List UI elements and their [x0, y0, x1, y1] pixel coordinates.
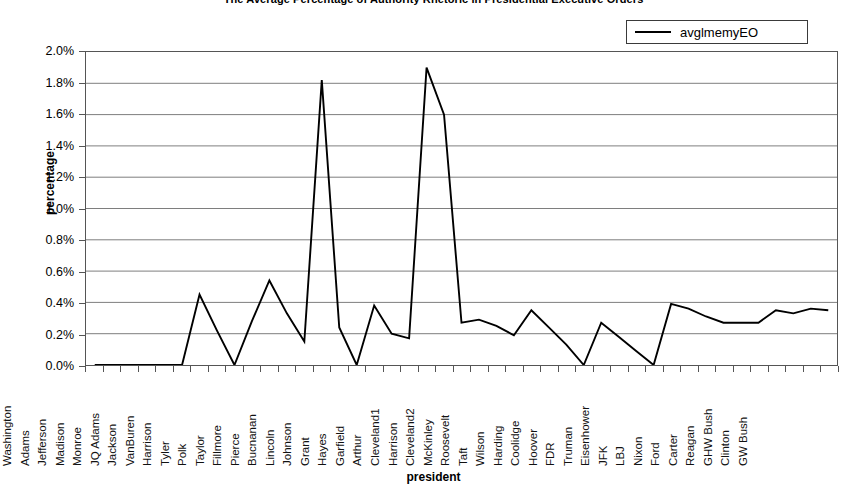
chart-canvas: The Average Percentage of Authority Rhet… — [0, 0, 867, 500]
x-axis-tick-label-text: Washington — [2, 406, 13, 468]
x-axis-tick-label-text: Ford — [650, 442, 661, 468]
x-axis-tick-label-text: Bucnanan — [247, 414, 258, 468]
data-series-line — [95, 68, 829, 365]
x-axis-tick-label-text: Harrison — [388, 423, 399, 468]
y-axis-tick-label: 0.0% — [16, 360, 74, 373]
x-axis-tick-label-text: Jackson — [107, 424, 118, 468]
chart-legend: avglmemyEO — [626, 20, 808, 44]
x-axis-tick-label-text: Reagan — [685, 426, 696, 468]
x-axis-tick-label-text: Polk — [177, 444, 188, 468]
x-axis-tick-label-text: LBJ — [615, 446, 626, 468]
x-axis-tick-label-text: Tyler — [160, 441, 171, 468]
x-axis-tick-label-text: Johnson — [282, 423, 293, 468]
y-axis-tick-label: 2.0% — [16, 45, 74, 58]
x-axis-tick-label-text: Hayes — [317, 433, 328, 468]
legend-line-swatch — [635, 31, 671, 33]
y-axis-tick-label: 1.6% — [16, 108, 74, 121]
y-axis-tick-label: 1.8% — [16, 77, 74, 90]
x-axis-tick-labels: WashingtonAdamsJeffersonMadisonMonroeJQ … — [85, 368, 838, 468]
y-axis-tick-label: 1.2% — [16, 171, 74, 184]
x-axis-tick-label-text: Taylor — [195, 435, 206, 468]
x-axis-tick-label-text: Taft — [458, 447, 469, 468]
x-axis-tick-label-text: Arthur — [352, 435, 363, 468]
x-axis-tick-label-text: Lincoln — [265, 430, 276, 468]
x-axis-tick-label: GW Bush — [738, 372, 834, 468]
x-axis-tick-label-text: Pierce — [230, 433, 241, 468]
x-axis-tick-label-text: JFK — [598, 446, 609, 468]
x-axis-tick-label-text: Grant — [300, 437, 311, 468]
x-axis-tick-label-text: McKinley — [423, 419, 434, 468]
y-axis-tick-labels: 2.0%1.8%1.6%1.4%1.2%1.0%0.8%0.6%0.4%0.2%… — [16, 51, 74, 366]
x-axis-tick-label-text: Nixon — [633, 437, 644, 468]
legend-label-avglmemyeo: avglmemyEO — [680, 26, 758, 39]
y-axis-tick-label: 0.6% — [16, 266, 74, 279]
x-axis-tick-label-text: Fillmore — [212, 425, 223, 468]
x-axis-tick-label-text: Clinton — [720, 430, 731, 468]
x-axis-tick-label-text: Wilson — [475, 431, 486, 468]
x-axis-tick-label-text: Roosevelt — [440, 415, 451, 468]
x-axis-tick-label-text: Carter — [668, 434, 679, 468]
x-axis-tick-label-text: Eisenhower — [580, 406, 591, 468]
x-axis-tick-label-text: GW Bush — [738, 417, 749, 468]
plot-area — [85, 51, 838, 366]
x-axis-tick-label-text: FDR — [545, 442, 556, 468]
x-axis-tick-label-text: GHW Bush — [703, 408, 714, 468]
x-axis-tick-label-text: Coolidge — [510, 421, 521, 468]
x-axis-tick-label-text: Cleveland1 — [370, 408, 381, 468]
x-axis-tick-label-text: Madison — [55, 423, 66, 468]
x-axis-tick-label-text: Monroe — [72, 427, 83, 468]
x-axis-tick-label-text: Truman — [563, 427, 574, 468]
y-axis-tick-label: 0.4% — [16, 297, 74, 310]
x-axis-tick-label-text: Garfield — [335, 426, 346, 468]
plot-svg — [86, 52, 837, 365]
x-axis-tick-mark — [838, 366, 839, 372]
x-axis-tick-label-text: JQ Adams — [90, 413, 101, 468]
y-axis-tick-label: 1.0% — [16, 203, 74, 216]
x-axis-tick-label-text: Harding — [493, 426, 504, 468]
chart-title: The Average Percentage of Authority Rhet… — [0, 0, 867, 5]
x-axis-tick-label-text: Cleveland2 — [405, 408, 416, 468]
y-axis-tick-label: 1.4% — [16, 140, 74, 153]
x-axis-tick-label-text: Jefferson — [37, 419, 48, 468]
x-axis-tick-label-text: Adams — [20, 430, 31, 468]
x-axis-title: president — [0, 470, 867, 484]
y-axis-tick-label: 0.8% — [16, 234, 74, 247]
x-axis-tick-label-text: VanBuren — [125, 416, 136, 468]
x-axis-tick-label-text: Hoover — [528, 429, 539, 468]
y-axis-tick-label: 0.2% — [16, 329, 74, 342]
x-axis-tick-label-text: Harrison — [142, 423, 153, 468]
